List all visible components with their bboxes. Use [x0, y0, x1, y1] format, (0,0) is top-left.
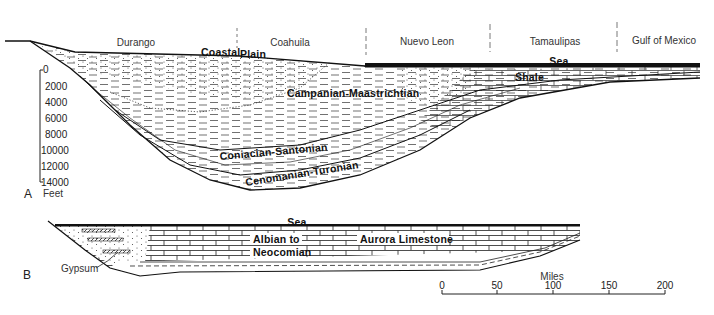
section-b: Sea Albian to Aurora Limestone Neocomian… [0, 216, 714, 290]
scale-tick: 200 [657, 280, 674, 291]
depth-tick: 8000 [45, 129, 68, 140]
scale-bar: Miles 0 50 100 150 200 [439, 271, 674, 294]
unit-label-campanian-maastrichtian: Campanian-Maastrichtian [287, 87, 419, 99]
sea-bar [365, 63, 700, 68]
depth-tick: 14000 [41, 177, 69, 188]
depth-tick: 6000 [45, 113, 68, 124]
panel-label-b: B [23, 268, 31, 282]
depth-unit-label: Feet [43, 188, 63, 199]
sea-bar-b [55, 224, 580, 227]
panel-label-a: A [24, 187, 32, 201]
depth-tick: 0 [43, 64, 49, 75]
unit-label-shale: Shale [515, 71, 544, 83]
region-label-gulf-of-mexico: Gulf of Mexico [632, 35, 696, 46]
unit-label-aurora-limestone: Aurora Limestone [360, 233, 453, 245]
region-label-coahuila: Coahuila [270, 37, 310, 48]
scale-tick: 100 [545, 280, 562, 291]
scale-tick: 50 [491, 280, 503, 291]
scale-tick: 0 [439, 280, 445, 291]
depth-tick: 10000 [41, 145, 69, 156]
sea-label-a: Sea [549, 55, 568, 67]
unit-label-albian-to: Albian to [253, 233, 300, 245]
region-label-nuevo-leon: Nuevo Leon [400, 36, 454, 47]
cross-section-diagram: Durango Coahuila Nuevo Leon Tamaulipas G… [0, 0, 714, 315]
scale-tick: 150 [601, 280, 618, 291]
depth-tick: 12000 [41, 161, 69, 172]
coastal-label: Coastal [201, 46, 240, 58]
plain-label: Plain [240, 48, 266, 60]
region-label-durango: Durango [117, 37, 156, 48]
sea-label-b: Sea [287, 216, 306, 228]
depth-axis: 0 2000 4000 6000 8000 10000 12000 14000 … [40, 64, 69, 199]
depth-tick: 4000 [45, 97, 68, 108]
section-a: Durango Coahuila Nuevo Leon Tamaulipas G… [0, 22, 714, 201]
depth-tick: 2000 [45, 81, 68, 92]
region-label-tamaulipas: Tamaulipas [530, 36, 581, 47]
gypsum-label: Gypsum [61, 263, 98, 274]
unit-label-neocomian: Neocomian [253, 246, 311, 258]
